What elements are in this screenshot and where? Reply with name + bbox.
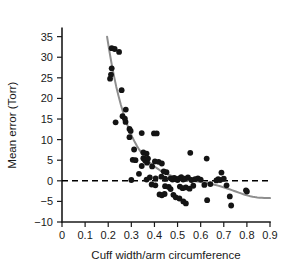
- data-point: [131, 147, 137, 153]
- data-point: [187, 150, 193, 156]
- data-point: [133, 157, 139, 163]
- x-tick-label: 0.3: [124, 229, 139, 241]
- data-point: [244, 189, 250, 195]
- data-point: [123, 107, 129, 113]
- x-tick-label: 0.4: [147, 229, 162, 241]
- x-tick-label: 0.1: [77, 229, 92, 241]
- y-tick-label: −5: [40, 195, 53, 207]
- data-point: [113, 119, 119, 125]
- data-point: [139, 130, 145, 136]
- x-tick-label: 0.2: [101, 229, 116, 241]
- data-point: [145, 156, 151, 162]
- data-point: [204, 156, 210, 162]
- data-point: [164, 169, 170, 175]
- data-point: [107, 76, 113, 82]
- data-point: [147, 175, 153, 181]
- data-point: [201, 182, 207, 188]
- data-point: [204, 197, 210, 203]
- fitted-trend-curve: [107, 37, 270, 198]
- y-tick-label: 30: [41, 51, 53, 63]
- chart-canvas: −10−505101520253035 00.10.20.30.40.50.60…: [0, 0, 290, 275]
- y-axis-label: Mean error (Torr): [6, 82, 18, 169]
- data-point: [154, 131, 160, 137]
- y-tick-label: 25: [41, 72, 53, 84]
- y-tick-label: 10: [41, 134, 53, 146]
- data-point: [207, 181, 213, 187]
- data-point: [128, 128, 134, 134]
- data-point: [139, 163, 145, 169]
- data-point: [136, 171, 142, 177]
- data-point: [198, 177, 204, 183]
- data-point: [159, 161, 165, 167]
- y-tick-label: 35: [41, 31, 53, 43]
- x-axis-ticks: 00.10.20.30.40.50.60.70.80.9: [59, 222, 278, 241]
- x-tick-label: 0.6: [193, 229, 208, 241]
- data-point: [152, 182, 158, 188]
- data-point: [183, 201, 189, 207]
- x-tick-label: 0.8: [239, 229, 254, 241]
- x-tick-label: 0.5: [170, 229, 185, 241]
- data-point: [224, 182, 230, 188]
- x-tick-label: 0.7: [216, 229, 231, 241]
- data-point: [228, 203, 234, 209]
- data-point: [190, 183, 196, 189]
- data-point: [221, 176, 227, 182]
- y-tick-label: 0: [47, 175, 53, 187]
- x-axis-label: Cuff width/arm circumference: [91, 249, 240, 261]
- data-point: [149, 163, 155, 169]
- x-tick-label: 0: [59, 229, 65, 241]
- data-point: [153, 175, 159, 181]
- data-point: [123, 119, 129, 125]
- y-tick-label: 5: [47, 154, 53, 166]
- data-point: [168, 186, 174, 192]
- data-point: [119, 87, 125, 93]
- x-tick-label: 0.9: [262, 229, 277, 241]
- y-tick-label: −10: [34, 216, 53, 228]
- data-point: [227, 194, 233, 200]
- y-axis-ticks: −10−505101520253035: [34, 31, 62, 228]
- data-point: [162, 176, 168, 182]
- data-point: [109, 65, 115, 71]
- data-point: [116, 49, 122, 55]
- y-tick-label: 15: [41, 113, 53, 125]
- data-point: [219, 170, 225, 176]
- data-point: [162, 191, 168, 197]
- data-points-group: [107, 45, 250, 208]
- y-tick-label: 20: [41, 92, 53, 104]
- data-point: [128, 177, 134, 183]
- scatter-plot-figure: −10−505101520253035 00.10.20.30.40.50.60…: [0, 0, 290, 275]
- data-point: [127, 134, 133, 140]
